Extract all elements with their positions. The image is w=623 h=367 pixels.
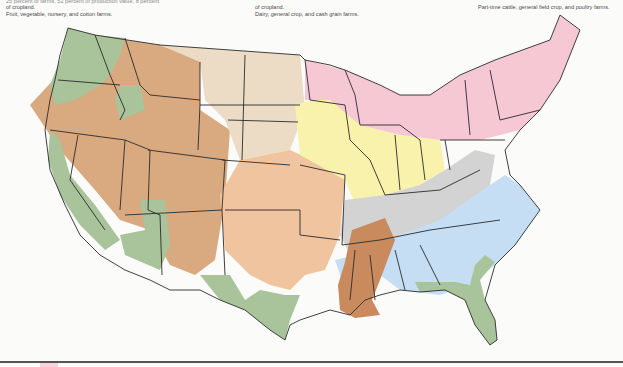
us-farm-regions-map [0,0,623,367]
bottom-color-mark [40,363,58,367]
bottom-rule [0,361,623,363]
